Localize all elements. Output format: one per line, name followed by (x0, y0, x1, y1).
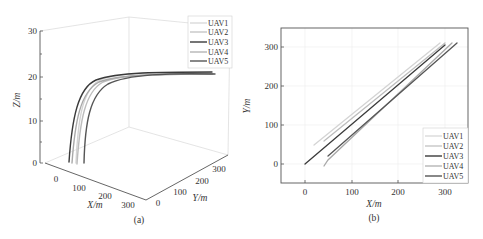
legend-label-uav4: UAV4 (443, 162, 463, 171)
legend-label-uav3: UAV3 (208, 38, 228, 47)
y-tick-label: 200 (195, 176, 209, 186)
legend-label-uav2: UAV2 (208, 28, 228, 37)
legend-a: UAV1 UAV2 UAV3 UAV4 UAV5 (188, 16, 232, 68)
legend-label-uav1: UAV1 (208, 19, 228, 28)
x-axis-label-b: X/m (365, 199, 381, 209)
legend-label-uav2: UAV2 (443, 142, 463, 151)
trajectory-uav1 (76, 73, 210, 163)
y-axis-label-b: Y/m (242, 98, 252, 113)
legend-label-uav4: UAV4 (208, 48, 228, 57)
legend-label-uav3: UAV3 (443, 152, 463, 161)
x-tick-label: 300 (438, 187, 452, 197)
x-axis-label: X/m (86, 200, 102, 210)
z-tick-label: 30 (28, 26, 38, 36)
y-tick-label: 300 (265, 42, 279, 52)
legend-b: UAV1 UAV2 UAV3 UAV4 UAV5 (423, 128, 468, 183)
x-tick-label: 300 (121, 200, 135, 210)
panel-b-2d-plot: 0 100 200 300 0 100 200 300 X/m Y/m (242, 28, 468, 224)
trajectory-uav4 (72, 74, 213, 163)
z-axis-tick-labels: 30 20 10 0 (28, 26, 38, 168)
z-tick-label: 0 (33, 158, 38, 168)
trajectory-uav2 (324, 43, 445, 141)
legend-label-uav5: UAV5 (208, 57, 228, 66)
legend-label-uav5: UAV5 (443, 172, 463, 181)
z-tick-label: 10 (28, 116, 38, 126)
y-tick-label: 100 (173, 187, 187, 197)
panel-a-3d-plot: 30 20 10 0 Z/m 0 100 200 300 X/m 0 100 2… (12, 16, 232, 226)
z-axis-label: Z/m (12, 92, 22, 107)
trajectory-uav1 (314, 43, 440, 145)
trajectory-uav2 (77, 74, 212, 164)
panel-a-caption: (a) (134, 215, 145, 226)
x-tick-label: 100 (72, 183, 86, 193)
y-tick-label: 0 (156, 198, 161, 208)
y-tick-label: 100 (265, 120, 279, 130)
x-axis-tick-labels-b: 0 100 200 300 (303, 187, 453, 197)
legend-label-uav1: UAV1 (443, 132, 463, 141)
y-axis-tick-labels: 0 100 200 300 (156, 164, 227, 208)
x-tick-label: 0 (54, 174, 59, 184)
y-axis-tick-labels-b: 0 100 200 300 (265, 42, 279, 169)
y-tick-label: 300 (212, 164, 226, 174)
x-tick-label: 0 (303, 187, 308, 197)
y-tick-label: 0 (274, 159, 279, 169)
trajectory-uav3 (69, 72, 212, 162)
panel-b-caption: (b) (368, 213, 379, 224)
y-tick-label: 200 (265, 81, 279, 91)
y-axis-label: Y/m (193, 193, 208, 203)
x-tick-label: 200 (391, 187, 405, 197)
x-tick-label: 100 (345, 187, 359, 197)
trajectory-uav5 (84, 74, 215, 163)
z-tick-label: 20 (28, 72, 38, 82)
figure: 30 20 10 0 Z/m 0 100 200 300 X/m 0 100 2… (0, 0, 483, 239)
3d-trajectories (69, 72, 215, 164)
